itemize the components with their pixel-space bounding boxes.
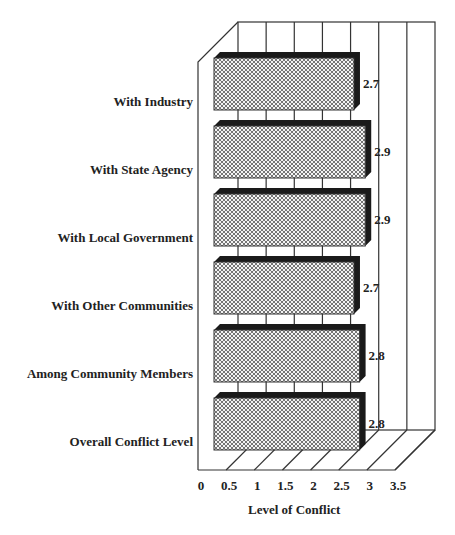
- x-tick-label: 2.5: [334, 478, 350, 494]
- value-label: 2.8: [369, 416, 385, 432]
- bar: [214, 330, 360, 382]
- bar: [214, 126, 365, 178]
- x-tick-label: 3: [367, 478, 374, 494]
- bar: [214, 194, 365, 246]
- category-label: With State Agency: [90, 162, 193, 178]
- x-tick-label: 0: [198, 478, 205, 494]
- value-label: 2.8: [369, 348, 385, 364]
- category-label: With Local Government: [57, 230, 193, 246]
- x-tick-label: 2: [310, 478, 317, 494]
- value-label: 2.7: [363, 280, 379, 296]
- category-label: Overall Conflict Level: [70, 434, 193, 450]
- x-tick-label: 1: [254, 478, 261, 494]
- category-label: Among Community Members: [27, 366, 193, 382]
- category-label: With Industry: [113, 94, 193, 110]
- bar: [214, 58, 354, 110]
- x-tick-label: 0.5: [221, 478, 237, 494]
- value-label: 2.9: [374, 144, 390, 160]
- category-label: With Other Communities: [51, 298, 193, 314]
- value-label: 2.9: [374, 212, 390, 228]
- value-label: 2.7: [363, 76, 379, 92]
- bar: [214, 398, 360, 450]
- x-axis-title: Level of Conflict: [248, 502, 340, 518]
- bar-chart-plot: [0, 0, 455, 535]
- x-tick-label: 3.5: [390, 478, 406, 494]
- x-tick-label: 1.5: [277, 478, 293, 494]
- bar: [214, 262, 354, 314]
